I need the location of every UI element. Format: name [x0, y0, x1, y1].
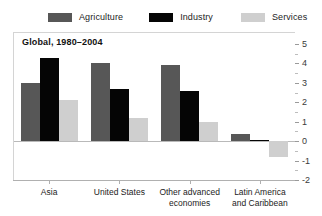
y-tick-label: 1	[302, 118, 307, 127]
chart-legend: Agriculture Industry Services	[0, 9, 322, 25]
y-tick-minor	[295, 54, 298, 55]
y-tick-label: -2	[302, 176, 310, 185]
bar-services	[269, 141, 288, 157]
legend-item-industry: Industry	[149, 9, 213, 25]
bar-agriculture	[91, 63, 110, 141]
x-tick	[49, 180, 50, 184]
bar-group	[161, 44, 218, 180]
bar-agriculture	[161, 65, 180, 141]
x-tick	[260, 180, 261, 184]
y-tick-label: 2	[302, 98, 307, 107]
legend-item-agriculture: Agriculture	[48, 9, 123, 25]
legend-swatch-industry	[149, 13, 173, 22]
chart-figure: Agriculture Industry Services Global, 19…	[0, 0, 322, 216]
legend-swatch-agriculture	[48, 13, 72, 22]
y-tick-label: -1	[302, 157, 310, 166]
y-axis: 543210-1-2	[295, 32, 322, 197]
y-tick-minor	[295, 73, 298, 74]
bar-group	[21, 44, 78, 180]
x-tick	[190, 180, 191, 184]
y-tick	[295, 141, 299, 142]
bar-industry	[110, 89, 129, 141]
bar-group	[231, 44, 288, 180]
legend-swatch-services	[241, 13, 265, 22]
x-tick-label: Other advanced economies	[155, 187, 225, 209]
bar-industry	[250, 140, 269, 141]
bar-services	[59, 100, 78, 141]
y-tick	[295, 44, 299, 45]
bar-group	[91, 44, 148, 180]
y-tick-label: 4	[302, 59, 307, 68]
y-tick-minor	[295, 93, 298, 94]
bar-agriculture	[231, 134, 250, 141]
y-tick	[295, 122, 299, 123]
y-tick-label: 5	[302, 40, 307, 49]
x-tick-label: Latin America and Caribbean	[225, 187, 295, 209]
bar-services	[129, 118, 148, 141]
x-axis-line	[13, 180, 295, 181]
legend-label-agriculture: Agriculture	[79, 12, 123, 22]
legend-label-services: Services	[272, 12, 307, 22]
legend-item-services: Services	[241, 9, 307, 25]
x-tick-label: Asia	[14, 187, 84, 198]
y-tick-minor	[295, 170, 298, 171]
y-tick	[295, 63, 299, 64]
plot-area	[14, 44, 295, 180]
bar-services	[199, 122, 218, 141]
y-tick-label: 0	[302, 137, 307, 146]
y-tick	[295, 83, 299, 84]
bar-industry	[40, 58, 59, 142]
y-tick-minor	[295, 131, 298, 132]
legend-label-industry: Industry	[180, 12, 213, 22]
x-tick-label: United States	[84, 187, 154, 198]
y-tick	[295, 102, 299, 103]
y-tick-label: 3	[302, 79, 307, 88]
bar-agriculture	[21, 83, 40, 141]
y-tick	[295, 161, 299, 162]
bar-industry	[180, 91, 199, 142]
y-tick-minor	[295, 112, 298, 113]
y-tick	[295, 180, 299, 181]
x-tick	[119, 180, 120, 184]
y-tick-minor	[295, 151, 298, 152]
